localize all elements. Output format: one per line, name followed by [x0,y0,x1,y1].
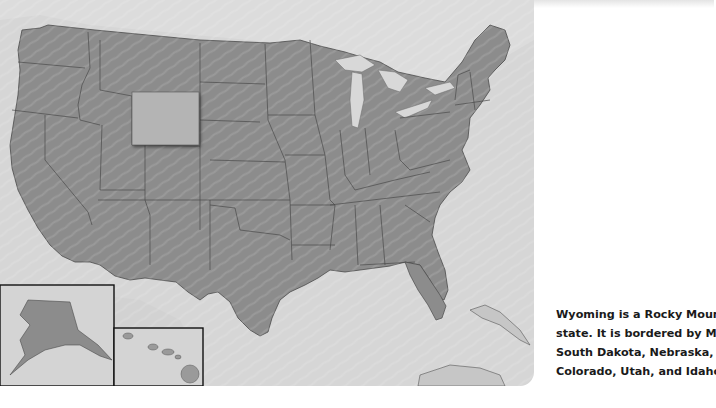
caption-line-1: Wyoming is a Rocky Mountain [556,305,716,324]
alaska-inset [0,285,114,386]
caption-line-3: South Dakota, Nebraska, [556,343,716,362]
hawaii-inset [114,328,203,386]
map-caption: Wyoming is a Rocky Mountain state. It is… [556,305,716,381]
map-top-fade [534,0,714,8]
us-map [0,0,534,386]
caption-line-2: state. It is bordered by Montan [556,324,716,343]
state-wyoming [132,92,199,145]
caption-line-4: Colorado, Utah, and Idaho. [556,362,716,381]
us-map-graphic [0,0,534,386]
